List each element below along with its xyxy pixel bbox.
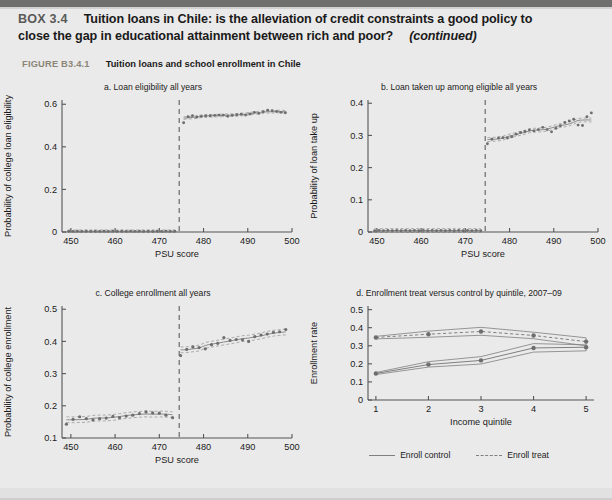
box-label: BOX 3.4 <box>18 12 68 26</box>
svg-text:450: 450 <box>63 442 78 452</box>
svg-text:Probability of college enrollm: Probability of college enrollment <box>3 306 13 437</box>
svg-text:0.3: 0.3 <box>350 131 363 141</box>
svg-text:0.5: 0.5 <box>350 305 363 315</box>
chart-panel-d: d. Enrollment treat versus control by qu… <box>306 288 612 488</box>
svg-text:490: 490 <box>546 236 561 246</box>
panel-d-legend: Enroll control Enroll treat <box>306 450 612 460</box>
svg-text:480: 480 <box>502 236 517 246</box>
svg-text:PSU score: PSU score <box>461 249 505 259</box>
panel-b-plot: 00.10.20.30.4450460470480490500PSU score… <box>306 82 612 282</box>
svg-text:PSU score: PSU score <box>155 455 199 465</box>
svg-text:450: 450 <box>63 236 78 246</box>
svg-text:0: 0 <box>358 395 363 405</box>
top-rule-divider <box>0 0 612 7</box>
legend-item-treat: Enroll treat <box>476 450 549 460</box>
svg-text:0.4: 0.4 <box>350 98 363 108</box>
svg-text:2: 2 <box>426 404 431 414</box>
svg-text:450: 450 <box>369 236 384 246</box>
svg-text:0.2: 0.2 <box>350 163 363 173</box>
figure-page: BOX 3.4Tuition loans in Chile: is the al… <box>0 0 612 500</box>
svg-text:0.1: 0.1 <box>44 433 57 443</box>
svg-text:480: 480 <box>196 236 211 246</box>
legend-label-treat: Enroll treat <box>507 450 549 460</box>
svg-text:490: 490 <box>240 236 255 246</box>
svg-text:4: 4 <box>531 404 536 414</box>
svg-text:0.4: 0.4 <box>350 323 363 333</box>
svg-text:0.5: 0.5 <box>44 304 57 314</box>
svg-text:Probability of loan take up: Probability of loan take up <box>309 113 319 219</box>
svg-text:460: 460 <box>107 442 122 452</box>
legend-item-control: Enroll control <box>369 450 450 460</box>
svg-text:500: 500 <box>284 236 299 246</box>
svg-text:0.4: 0.4 <box>44 337 57 347</box>
svg-text:0.3: 0.3 <box>350 341 363 351</box>
svg-text:PSU score: PSU score <box>155 249 199 259</box>
svg-text:0: 0 <box>52 227 57 237</box>
svg-text:0.1: 0.1 <box>350 195 363 205</box>
legend-label-control: Enroll control <box>400 450 450 460</box>
svg-text:1: 1 <box>373 404 378 414</box>
panel-a-plot: 00.20.40.6450460470480490500PSU scorePro… <box>0 82 306 282</box>
panel-d-plot: 00.10.20.30.40.512345Income quintileEnro… <box>306 288 612 448</box>
svg-text:470: 470 <box>458 236 473 246</box>
svg-text:500: 500 <box>590 236 605 246</box>
chart-panel-c: c. College enrollment all years 0.10.20.… <box>0 288 306 488</box>
svg-text:5: 5 <box>584 404 589 414</box>
svg-text:470: 470 <box>152 442 167 452</box>
legend-swatch-dashed-icon <box>476 455 502 456</box>
box-title-line1: Tuition loans in Chile: is the alleviati… <box>84 12 533 26</box>
svg-text:480: 480 <box>196 442 211 452</box>
box-title-line2: close the gap in educational attainment … <box>18 29 393 43</box>
svg-text:0.2: 0.2 <box>44 401 57 411</box>
svg-text:3: 3 <box>478 404 483 414</box>
svg-text:0: 0 <box>358 227 363 237</box>
chart-panel-a: a. Loan eligibility all years 00.20.40.6… <box>0 82 306 282</box>
page-bottom-strip <box>0 488 612 500</box>
svg-text:0.6: 0.6 <box>44 99 57 109</box>
figure-number: FIGURE B3.4.1 <box>22 59 90 69</box>
svg-text:0.2: 0.2 <box>350 359 363 369</box>
figure-caption: FIGURE B3.4.1Tuition loans and school en… <box>22 58 301 70</box>
panel-c-plot: 0.10.20.30.40.5450460470480490500PSU sco… <box>0 288 306 488</box>
svg-text:Income quintile: Income quintile <box>450 417 512 427</box>
legend-swatch-solid-icon <box>369 455 395 456</box>
svg-text:0.1: 0.1 <box>350 377 363 387</box>
svg-text:0.4: 0.4 <box>44 142 57 152</box>
chart-panel-b: b. Loan taken up among eligible all year… <box>306 82 612 282</box>
svg-text:460: 460 <box>107 236 122 246</box>
svg-text:490: 490 <box>240 442 255 452</box>
svg-text:0.3: 0.3 <box>44 369 57 379</box>
figure-title: Tuition loans and school enrollment in C… <box>106 59 301 69</box>
svg-text:Probability of college loan el: Probability of college loan eligibility <box>3 95 13 237</box>
svg-text:Enrollment rate: Enrollment rate <box>309 322 319 384</box>
svg-text:0.2: 0.2 <box>44 185 57 195</box>
box-heading: BOX 3.4Tuition loans in Chile: is the al… <box>18 11 598 45</box>
svg-text:470: 470 <box>152 236 167 246</box>
continued-marker: (continued) <box>409 29 476 43</box>
svg-text:460: 460 <box>413 236 428 246</box>
svg-text:500: 500 <box>284 442 299 452</box>
